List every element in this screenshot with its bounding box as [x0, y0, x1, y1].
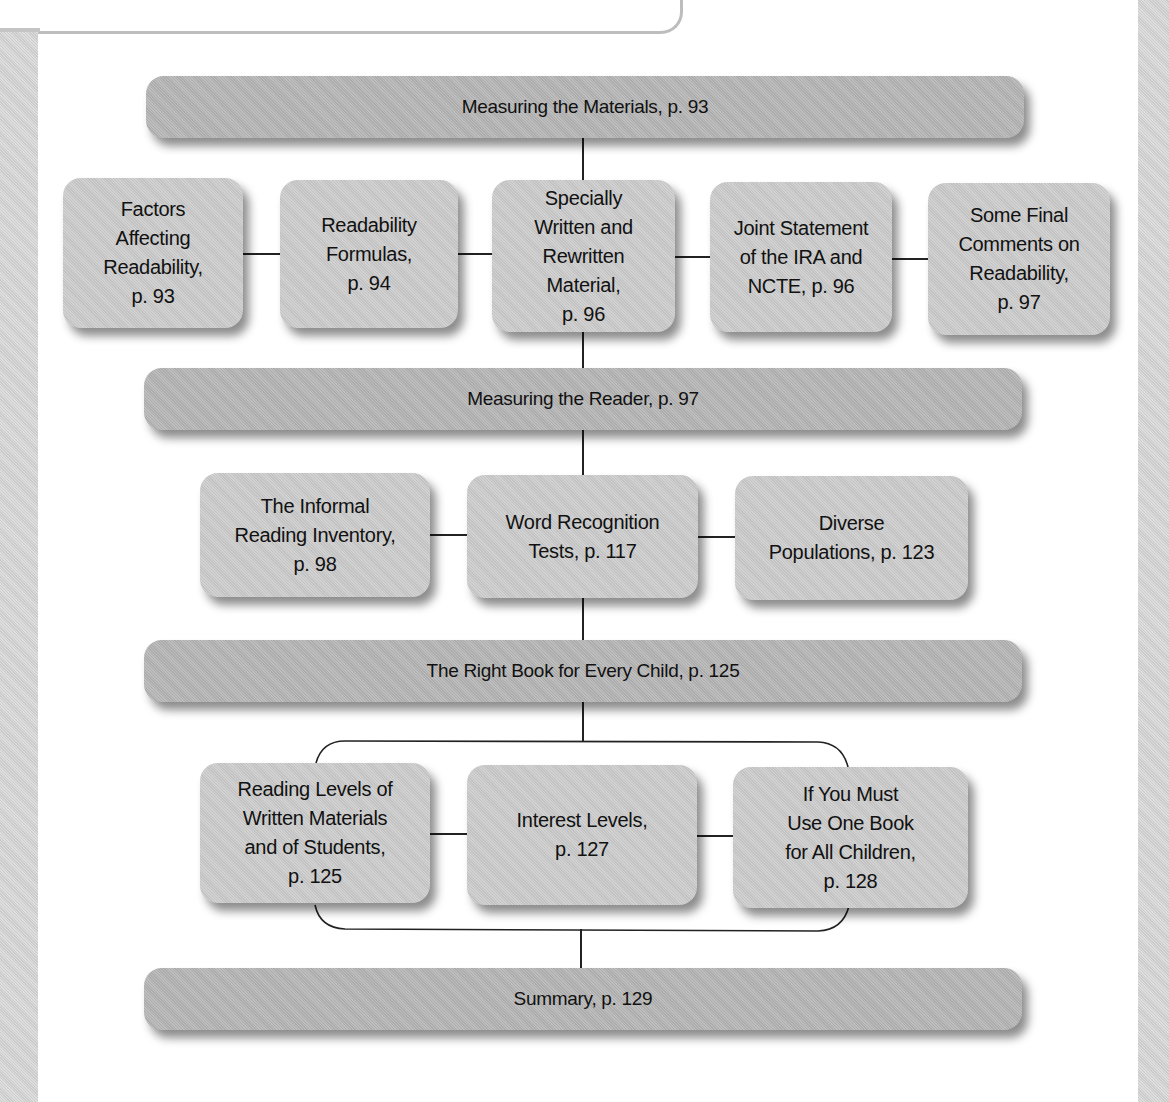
- connector-row1-4-5: [892, 258, 929, 260]
- connector-row3-2-3: [697, 835, 734, 837]
- section-bar-reader: Measuring the Reader, p. 97: [144, 368, 1022, 430]
- connector-row3-1-2: [430, 833, 468, 835]
- section-label: Measuring the Reader, p. 97: [467, 388, 699, 410]
- topic-label: Some Final Comments on Readability, p. 9…: [958, 201, 1079, 317]
- section-label: Measuring the Materials, p. 93: [462, 96, 709, 118]
- section-bar-materials: Measuring the Materials, p. 93: [146, 76, 1024, 138]
- right-margin-strip: [1138, 0, 1169, 1102]
- topic-box-informal-reading-inventory: The Informal Reading Inventory, p. 98: [200, 473, 430, 597]
- connector-row1-to-bar2: [582, 330, 584, 370]
- topic-box-one-book-for-all: If You Must Use One Book for All Childre…: [733, 767, 968, 908]
- topic-box-diverse-populations: Diverse Populations, p. 123: [735, 476, 968, 600]
- topic-box-specially-written-material: Specially Written and Rewritten Material…: [492, 180, 675, 332]
- section-label: Summary, p. 129: [514, 988, 653, 1010]
- connector-bar1-to-row1: [582, 138, 584, 182]
- topic-label: The Informal Reading Inventory, p. 98: [235, 492, 396, 579]
- topic-label: Readability Formulas, p. 94: [321, 211, 417, 298]
- topic-box-interest-levels: Interest Levels, p. 127: [467, 765, 697, 905]
- section-bar-right-book: The Right Book for Every Child, p. 125: [144, 640, 1022, 702]
- section-bar-summary: Summary, p. 129: [144, 968, 1022, 1030]
- connector-bar3-to-bracket: [582, 702, 584, 742]
- topic-label: Specially Written and Rewritten Material…: [534, 184, 633, 329]
- top-panel: [0, 0, 683, 34]
- topic-label: Factors Affecting Readability, p. 93: [103, 195, 202, 311]
- connector-row1-3-4: [675, 256, 711, 258]
- topic-label: Diverse Populations, p. 123: [769, 509, 935, 567]
- connector-row1-2-3: [458, 253, 493, 255]
- topic-label: Reading Levels of Written Materials and …: [237, 775, 392, 891]
- topic-label: Word Recognition Tests, p. 117: [506, 508, 660, 566]
- topic-box-reading-levels: Reading Levels of Written Materials and …: [200, 763, 430, 903]
- topic-box-factors-affecting-readability: Factors Affecting Readability, p. 93: [63, 178, 243, 328]
- left-margin-strip: [0, 32, 38, 1102]
- section-label: The Right Book for Every Child, p. 125: [427, 660, 740, 682]
- connector-bracket-to-summary: [580, 929, 582, 969]
- topic-box-word-recognition-tests: Word Recognition Tests, p. 117: [467, 475, 698, 598]
- topic-box-final-comments: Some Final Comments on Readability, p. 9…: [928, 183, 1110, 335]
- connector-row1-1-2: [243, 253, 281, 255]
- connector-row2-2-3: [698, 536, 736, 538]
- topic-label: Interest Levels, p. 127: [517, 806, 648, 864]
- connector-bar2-to-row2: [582, 430, 584, 476]
- connector-row2-to-bar3: [582, 598, 584, 642]
- topic-box-readability-formulas: Readability Formulas, p. 94: [280, 180, 458, 328]
- connector-row2-1-2: [430, 534, 468, 536]
- topic-box-joint-statement: Joint Statement of the IRA and NCTE, p. …: [710, 182, 892, 332]
- topic-label: Joint Statement of the IRA and NCTE, p. …: [734, 214, 868, 301]
- topic-label: If You Must Use One Book for All Childre…: [785, 780, 916, 896]
